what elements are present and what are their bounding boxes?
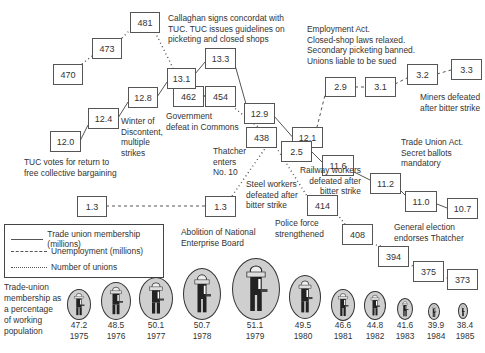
unions-box-1985: 373 <box>447 269 478 290</box>
legend-label-unemployment: Unemployment (millions) <box>51 246 143 256</box>
unemployment-box-1979: 1.3 <box>205 196 236 217</box>
pct-1976: 48.51976 <box>96 320 136 341</box>
membership-box-1979: 13.3 <box>205 48 236 69</box>
unemployment-box-1984: 3.3 <box>451 59 482 80</box>
membership-box-1983: 11.2 <box>370 173 401 194</box>
worker-figure-icon <box>183 268 221 320</box>
unions-box-1977: 481 <box>130 12 160 33</box>
worker-figure-icon <box>101 282 131 320</box>
worker-figure-icon <box>289 275 321 319</box>
membership-box-1977: 12.8 <box>128 87 158 108</box>
unions-box-1976: 473 <box>92 38 122 59</box>
worker-figure-icon <box>458 303 468 319</box>
legend-item-unions: Number of unions <box>11 262 117 272</box>
unemployment-box-1980: 2.5 <box>281 141 312 162</box>
pct-1977: 50.11977 <box>136 320 176 341</box>
membership-box-1978: 13.1 <box>167 68 196 89</box>
worker-figure-icon <box>331 289 355 321</box>
dashed-line-icon <box>11 251 47 252</box>
membership-box-1984: 11.0 <box>405 191 437 212</box>
unions-box-1981: 414 <box>307 195 338 216</box>
membership-box-1985: 10.7 <box>447 198 478 219</box>
worker-figure-icon <box>139 277 173 320</box>
worker-figure-icon <box>397 298 413 320</box>
worker-figure-icon <box>364 291 386 320</box>
note-winter-of-discontent: Winter of Discontent, multiple strikes <box>121 116 163 158</box>
unions-box-1983: 394 <box>378 246 409 267</box>
membership-box-1975: 12.0 <box>50 131 81 152</box>
pct-1980: 49.51980 <box>283 320 323 341</box>
unions-box-1975: 470 <box>53 64 83 85</box>
percentage-panel-title: Trade-union membership as a percentage o… <box>4 282 61 337</box>
membership-box-1976: 12.4 <box>88 108 119 129</box>
membership-box-1980: 12.9 <box>244 103 275 124</box>
unemployment-box-1982: 3.1 <box>365 77 396 97</box>
note-callaghan: Callaghan signs concordat with TUC. TUC … <box>168 13 285 45</box>
worker-figure-icon <box>232 258 280 320</box>
note-thatcher-enters: Thatcher enters No. 10 <box>213 146 246 178</box>
worker-figure-icon <box>67 289 91 320</box>
pct-1975: 47.21975 <box>59 320 99 341</box>
note-employment-act: Employment Act. Closed-shop laws relaxed… <box>307 24 415 66</box>
unemployment-box-1983: 3.2 <box>407 64 438 85</box>
legend: Trade union membership (millions) Unempl… <box>4 224 164 278</box>
unions-box-1980: 438 <box>246 127 277 148</box>
worker-figure-icon <box>428 303 440 320</box>
unions-box-1979: 454 <box>205 86 236 107</box>
legend-label-unions: Number of unions <box>51 262 117 272</box>
pct-1985: 38.41985 <box>445 320 485 341</box>
note-trade-union-act: Trade Union Act. Secret ballots mandator… <box>401 137 463 169</box>
note-steel-workers: Steel workers defeated after bitter stri… <box>246 179 298 211</box>
unemployment-box-1975: 1.3 <box>77 196 107 217</box>
unions-box-1978: 462 <box>173 86 204 107</box>
note-abolition-neb: Abolition of National Enterprise Board <box>181 227 256 248</box>
dotted-line-icon <box>11 267 47 268</box>
note-tuc-votes: TUC votes for return to free collective … <box>24 157 117 178</box>
note-police-force: Police force strengthened <box>275 218 324 239</box>
solid-line-icon <box>11 239 43 240</box>
pct-1978: 50.71978 <box>182 320 222 341</box>
pct-1979: 51.11979 <box>235 320 275 341</box>
unions-box-1982: 408 <box>342 224 373 245</box>
unions-box-1984: 375 <box>413 261 444 282</box>
note-government-defeat: Government defeat in Commons <box>166 111 239 132</box>
note-railway-workers: Railway workers defeated after bitter st… <box>300 165 361 197</box>
note-miners: Miners defeated after bitter strike <box>420 92 480 113</box>
note-general-election: General election endorses Thatcher <box>394 222 464 243</box>
legend-item-unemployment: Unemployment (millions) <box>11 246 143 256</box>
unemployment-box-1981: 2.9 <box>325 77 356 97</box>
